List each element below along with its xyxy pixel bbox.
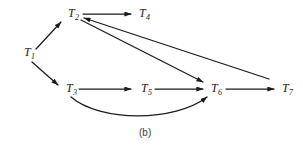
node-t5: T 5 — [141, 81, 152, 97]
node-t6-subscript: 6 — [218, 88, 222, 97]
node-t5-subscript: 5 — [148, 88, 152, 97]
node-t4: T 4 — [139, 6, 150, 22]
edge-t3-to-t6-arc — [71, 97, 207, 116]
edge-t1-to-t2 — [36, 22, 61, 49]
node-t7-subscript: 7 — [289, 88, 294, 97]
node-t3: T 3 — [66, 81, 77, 97]
node-t3-subscript: 3 — [72, 88, 77, 97]
node-t2: T 2 — [68, 6, 79, 22]
edges-group — [32, 14, 274, 116]
node-t4-subscript: 4 — [146, 13, 150, 22]
node-t6: T 6 — [211, 81, 222, 97]
node-t2-subscript: 2 — [75, 13, 79, 22]
figure-caption: (b) — [139, 127, 151, 138]
edge-t1-to-t3 — [32, 62, 58, 85]
nodes-group: T 1 T 2 T 3 T 4 T 5 T 6 — [24, 6, 294, 97]
node-t7: T 7 — [282, 81, 294, 97]
node-t1-subscript: 1 — [31, 52, 35, 61]
node-t1: T 1 — [24, 45, 35, 61]
edge-t7-to-t2 — [84, 18, 269, 79]
directed-graph-canvas: T 1 T 2 T 3 T 4 T 5 T 6 — [0, 0, 303, 148]
figure-container: T 1 T 2 T 3 T 4 T 5 T 6 — [0, 0, 303, 148]
